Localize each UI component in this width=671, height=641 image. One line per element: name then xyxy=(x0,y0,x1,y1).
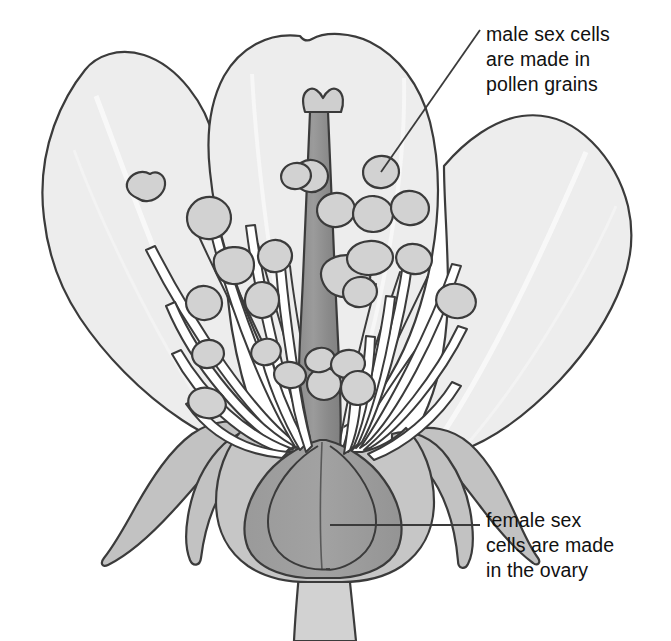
female-label-line-1: female sex xyxy=(486,508,614,533)
male-label-line-1: male sex cells xyxy=(486,22,610,47)
male-sex-cells-label: male sex cells are made in pollen grains xyxy=(486,22,610,97)
male-label-line-3: pollen grains xyxy=(486,72,610,97)
female-sex-cells-label: female sex cells are made in the ovary xyxy=(486,508,614,583)
female-label-line-3: in the ovary xyxy=(486,558,614,583)
male-label-line-2: are made in xyxy=(486,47,610,72)
female-label-line-2: cells are made xyxy=(486,533,614,558)
anther xyxy=(214,247,254,284)
flower-diagram-figure: male sex cells are made in pollen grains… xyxy=(0,0,671,641)
